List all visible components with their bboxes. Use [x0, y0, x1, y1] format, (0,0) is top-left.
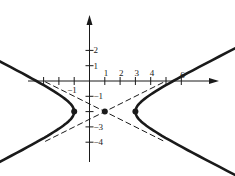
hyperbola-curve — [0, 0, 235, 176]
key-points — [71, 109, 138, 115]
left-vertex-dot — [71, 109, 77, 115]
x-axis-label: 3 — [134, 68, 139, 78]
x-axis-arrow-icon — [209, 78, 219, 84]
x-axis-label: 1 — [104, 68, 109, 78]
x-axis-label: 4 — [150, 68, 155, 78]
y-axis-label: −4 — [94, 137, 104, 147]
right-vertex-dot — [132, 109, 138, 115]
axes: 12346−1 21−1−3−4 — [28, 15, 219, 162]
x-axis-label: −1 — [67, 85, 77, 95]
y-axis-label: −1 — [94, 91, 104, 101]
y-axis-arrow-icon — [87, 15, 93, 25]
x-axis-label: 2 — [119, 68, 124, 78]
y-axis-labels: 21−1−3−4 — [94, 45, 104, 147]
y-axis-label: 1 — [94, 61, 99, 71]
y-axis-label: 2 — [94, 45, 99, 55]
left-branch — [0, 0, 74, 176]
right-branch — [135, 0, 235, 176]
y-axis-label: −3 — [94, 122, 104, 132]
hyperbola-diagram: 12346−1 21−1−3−4 — [0, 0, 235, 176]
center-dot — [102, 109, 108, 115]
